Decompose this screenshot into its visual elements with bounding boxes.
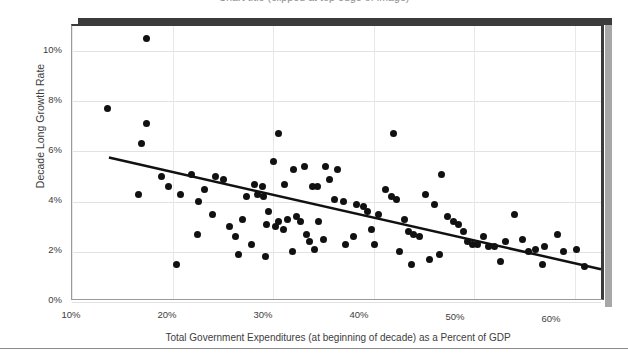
y-tick-label-4: 4%	[6, 195, 62, 205]
gridline-horizontal	[72, 302, 601, 303]
x-tick-label-10: 10%	[43, 310, 99, 320]
y-tick-label-10: 10%	[6, 45, 62, 55]
y-tick-label-2: 2%	[6, 245, 62, 255]
y-tick-label-0: 0%	[6, 295, 62, 305]
x-axis-title: Total Government Expenditures (at beginn…	[71, 332, 605, 343]
x-tick-label-60: 60%	[523, 314, 579, 324]
chart-title: Chart title (clipped at top edge of imag…	[0, 0, 628, 3]
clipped-title-strip: Chart title (clipped at top edge of imag…	[0, 0, 628, 11]
x-tick-label-20: 20%	[139, 310, 195, 320]
scatter-chart-figure: Chart title (clipped at top edge of imag…	[0, 0, 628, 357]
y-tick-label-6: 6%	[6, 145, 62, 155]
footer-divider	[0, 348, 628, 349]
plot-frame-corner	[605, 18, 612, 25]
trendline	[72, 26, 601, 299]
y-tick-label-8: 8%	[6, 95, 62, 105]
x-tick-label-40: 40%	[331, 310, 387, 320]
plot-frame-shadow-right	[605, 18, 612, 307]
x-tick-label-30: 30%	[235, 310, 291, 320]
x-tick-label-50: 50%	[427, 312, 483, 322]
plot-area	[71, 24, 604, 300]
